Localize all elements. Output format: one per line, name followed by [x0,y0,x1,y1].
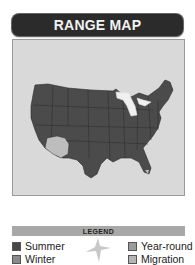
summer-swatch [12,242,21,251]
year-round-swatch [128,242,137,251]
legend-label-summer: Summer [25,240,65,252]
legend-title: LEGEND [83,228,115,235]
legend-label-migration: Migration [141,253,184,265]
winter-swatch [12,255,21,264]
legend-item-summer: Summer [12,240,65,252]
us-outline-summer [31,80,173,178]
map-panel [12,39,185,196]
migration-swatch [128,255,137,264]
legend-label-year-round: Year-round [141,240,193,252]
winter-range-southwest [45,136,69,158]
legend-item-migration: Migration [128,253,184,265]
us-range-map [13,40,184,195]
legend-bar: LEGEND [12,226,185,236]
range-map-banner: RANGE MAP [12,14,183,36]
legend-label-winter: Winter [25,253,55,265]
legend-item-year-round: Year-round [128,240,193,252]
legend-item-winter: Winter [12,253,55,265]
bird-silhouette-icon [84,236,112,264]
banner-title: RANGE MAP [54,17,141,33]
